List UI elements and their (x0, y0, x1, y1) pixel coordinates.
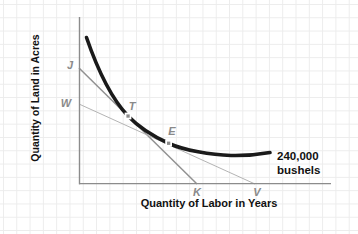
isoquant-curve (87, 38, 271, 156)
point-label-w: W (61, 97, 73, 109)
annotation-bushels-unit: bushels (277, 164, 320, 176)
marker-t (126, 114, 129, 117)
marker-e (167, 142, 170, 145)
point-label-t: T (129, 100, 137, 112)
x-axis-title: Quantity of Labor in Years (141, 197, 278, 209)
point-label-e: E (168, 125, 176, 137)
chart-canvas: J W T E K V 240,000 bushels Quantity of … (0, 0, 358, 234)
y-axis-title: Quantity of Land in Acres (29, 34, 41, 162)
point-label-j: J (67, 59, 74, 71)
isoquant-figure: J W T E K V 240,000 bushels Quantity of … (0, 0, 358, 234)
annotation-bushels-value: 240,000 (277, 150, 319, 162)
